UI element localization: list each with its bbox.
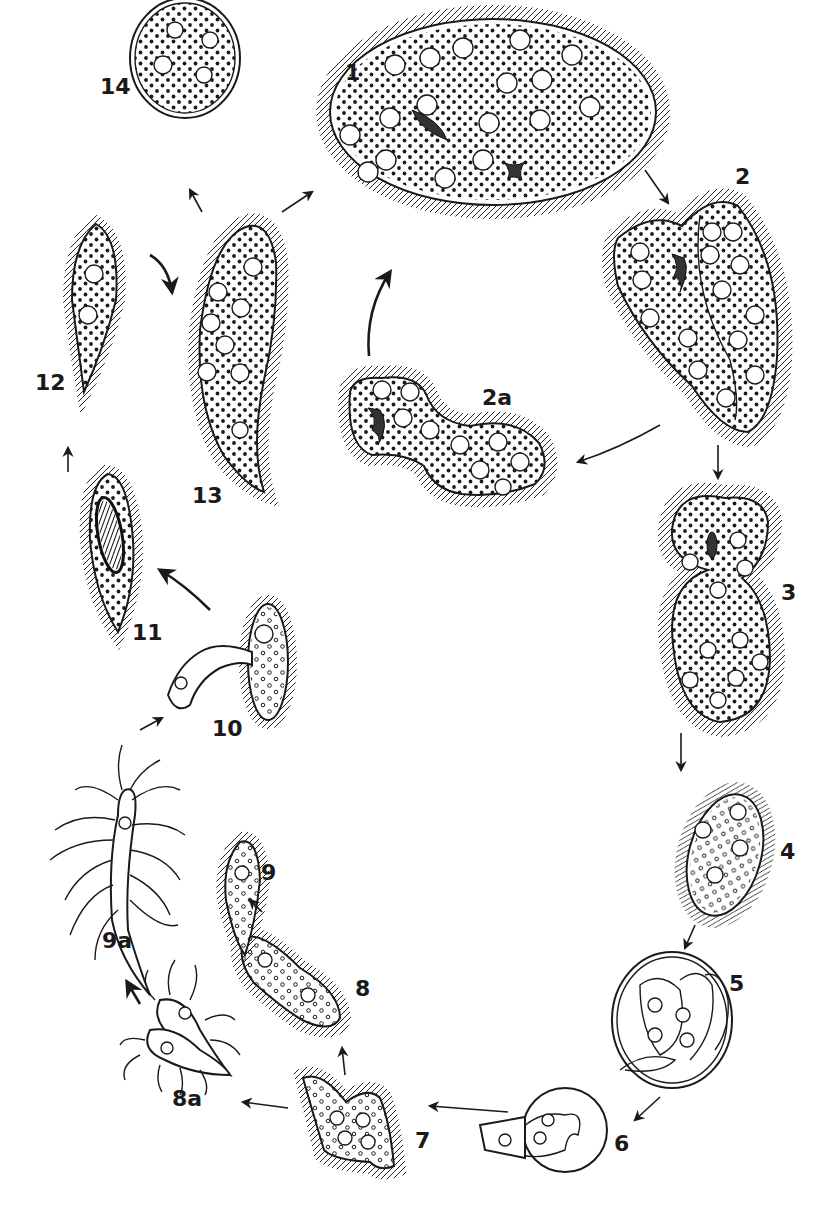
stage-2a-cell <box>344 371 551 501</box>
arrow-4-to-5 <box>685 925 695 948</box>
label-stage-12: 12 <box>35 372 66 394</box>
life-cycle-drawing <box>0 0 836 1217</box>
stage-7-cell <box>300 1073 400 1174</box>
label-stage-14: 14 <box>100 76 131 98</box>
arrow-10-to-11 <box>160 570 210 610</box>
stage-9a-cell <box>50 745 185 995</box>
stage-4-cell <box>667 778 783 931</box>
label-stage-13: 13 <box>192 485 223 507</box>
arrow-1-to-2 <box>645 170 668 203</box>
label-stage-8a: 8a <box>172 1088 202 1110</box>
arrow-13-to-1 <box>282 192 312 212</box>
arrow-9a-to-10 <box>140 718 162 730</box>
label-stage-8: 8 <box>355 978 370 1000</box>
stage-12-cell <box>68 220 121 400</box>
label-stage-2a: 2a <box>482 387 512 409</box>
arrow-8a-to-9a <box>127 982 140 1004</box>
label-stage-4: 4 <box>780 841 795 863</box>
stage-14-cyst <box>130 0 240 118</box>
label-stage-2: 2 <box>735 166 750 188</box>
arrow-2-to-2a <box>578 425 660 462</box>
label-stage-11: 11 <box>132 622 163 644</box>
arrow-13-to-14 <box>190 190 202 212</box>
arrow-2a-to-1 <box>368 272 390 356</box>
arrow-5-to-6 <box>635 1097 660 1120</box>
stage-10-budding <box>168 600 292 724</box>
stage-6-emerging <box>480 1088 607 1172</box>
label-stage-3: 3 <box>781 582 796 604</box>
label-stage-5: 5 <box>729 973 744 995</box>
arrow-7-to-8 <box>342 1048 345 1075</box>
label-stage-9a: 9a <box>102 930 132 952</box>
label-stage-10: 10 <box>212 718 243 740</box>
stage-2-cell <box>609 196 785 440</box>
stage-13-cell <box>194 220 282 499</box>
stage-1-cell <box>323 12 663 212</box>
label-stage-9: 9 <box>261 862 276 884</box>
stage-11-cell <box>85 470 139 640</box>
label-stage-7: 7 <box>415 1130 430 1152</box>
arrow-7-to-8a <box>243 1102 288 1108</box>
label-stage-6: 6 <box>614 1133 629 1155</box>
stage-3-cell <box>665 490 778 730</box>
label-stage-1: 1 <box>345 62 360 84</box>
arrow-6-to-7 <box>430 1106 508 1112</box>
arrow-12-to-13 <box>150 255 172 292</box>
stage-5-cyst <box>612 952 732 1088</box>
